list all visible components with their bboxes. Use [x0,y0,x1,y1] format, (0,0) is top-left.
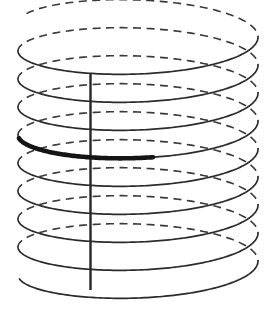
helix-drawing-canvas: Helix with highlighted arc segment Line … [0,0,276,313]
helix-figure: Helix with highlighted arc segment Line … [0,0,276,313]
